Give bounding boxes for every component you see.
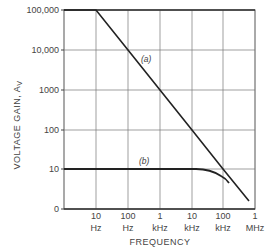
x-tick-unit: Hz: [91, 223, 102, 233]
y-axis-label: VOLTAGE GAIN, AV: [12, 81, 23, 170]
x-tick-label: 100: [120, 211, 135, 221]
x-tick-labels: 10 Hz 100 Hz 1 kHz 10 kHz 100 kHz 1 MHz: [91, 211, 265, 233]
series-b-label: (b): [139, 156, 150, 166]
y-tick-label: 1000: [39, 85, 59, 95]
x-tick-label: 10: [187, 211, 197, 221]
x-tick-label: 100: [215, 211, 230, 221]
y-tick-labels: 100,000 10,000 1000 100 10 0: [26, 5, 59, 214]
x-tick-unit: kHz: [215, 223, 231, 233]
x-tick-unit: MHz: [246, 223, 265, 233]
y-tick-label: 0: [54, 204, 59, 214]
x-tick-unit: kHz: [152, 223, 168, 233]
x-tick-label: 10: [91, 211, 101, 221]
x-tick-label: 1: [157, 211, 162, 221]
y-tick-label: 10: [49, 164, 59, 174]
x-tick-unit: kHz: [184, 223, 200, 233]
y-tick-label: 100,000: [26, 5, 59, 15]
y-tick-label: 10,000: [31, 45, 59, 55]
y-tick-label: 100: [44, 125, 59, 135]
bode-plot: 100,000 10,000 1000 100 10 0 VOLTAGE GAI…: [0, 0, 272, 251]
x-tick-label: 1: [252, 211, 257, 221]
series-a-label: (a): [141, 54, 152, 64]
x-tick-unit: Hz: [123, 223, 134, 233]
x-axis-label: FREQUENCY: [129, 237, 190, 247]
